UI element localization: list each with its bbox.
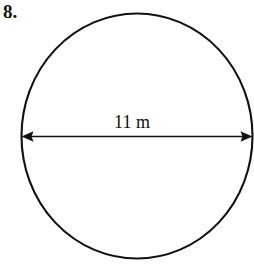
problem-number: 8. <box>3 1 17 23</box>
geometry-figure: 8. 11 m <box>0 0 254 265</box>
figure-canvas <box>0 0 254 265</box>
